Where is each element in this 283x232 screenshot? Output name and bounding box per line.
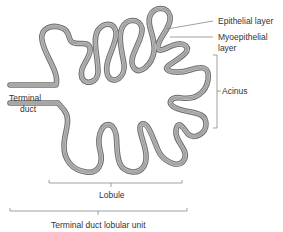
label-terminal-duct-line1: Terminal (9, 93, 41, 103)
label-terminal-duct-lobular-unit: Terminal duct lobular unit (51, 220, 146, 230)
label-lobule: Lobule (99, 190, 125, 200)
label-myoepithelial-layer-line1: Myoepithelial (218, 32, 268, 42)
label-epithelial-layer: Epithelial layer (218, 16, 273, 26)
label-acinus: Acinus (222, 86, 248, 96)
label-myoepithelial-layer-line2: layer (218, 43, 236, 53)
label-terminal-duct-line2: duct (20, 104, 36, 114)
